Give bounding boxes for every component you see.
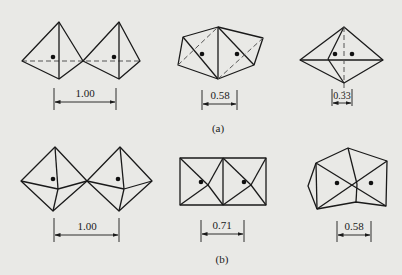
panel-label-b: (b) [216, 253, 229, 266]
diagram-a1-corner-sharing-tetrahedra: 1.00 [22, 22, 142, 110]
tetrahedron-left [22, 22, 83, 79]
tetrahedron-right [83, 22, 140, 79]
dimension-b1: 1.00 [54, 218, 119, 242]
diagram-b1-corner-sharing-octahedra: 1.00 [21, 147, 152, 242]
dimension-label: 1.00 [77, 220, 97, 232]
center-atom-dot [369, 181, 374, 186]
diagram-b3-face-sharing-octahedra: 0.58 [308, 148, 387, 242]
dimension-a2: 0.58 [202, 89, 237, 110]
diagram-a2-edge-sharing-tetrahedra: 0.58 [178, 27, 263, 110]
bipyramid-outline [300, 27, 383, 83]
center-atom-dot [242, 180, 247, 185]
center-atom-dot [350, 52, 355, 57]
polyhedra-linkage-figure: 1.00 0.58 0.33 (a) [0, 0, 402, 275]
center-atom-dot [200, 52, 205, 57]
center-atom-dot [116, 177, 121, 182]
dimension-label: 0.58 [210, 89, 230, 101]
dimension-label: 0.33 [333, 90, 351, 101]
center-atom-dot [112, 55, 117, 60]
diagram-b2-edge-sharing-octahedra: 0.71 [180, 158, 266, 242]
dimension-b3: 0.58 [337, 220, 371, 242]
dimension-a3: 0.33 [332, 89, 352, 106]
dimension-label: 1.00 [75, 87, 95, 99]
center-atom-dot [333, 52, 338, 57]
center-atom-dot [51, 55, 56, 60]
center-atom-dot [199, 180, 204, 185]
center-atom-dot [335, 181, 340, 186]
panel-label-a: (a) [212, 122, 225, 135]
diagram-a3-face-sharing-tetrahedra: 0.33 [300, 27, 383, 106]
dimension-label: 0.71 [212, 219, 231, 231]
center-atom-dot [235, 52, 240, 57]
dimension-label: 0.58 [344, 220, 364, 232]
dimension-a1: 1.00 [54, 87, 116, 110]
center-atom-dot [51, 177, 56, 182]
dimension-b2: 0.71 [201, 219, 244, 242]
